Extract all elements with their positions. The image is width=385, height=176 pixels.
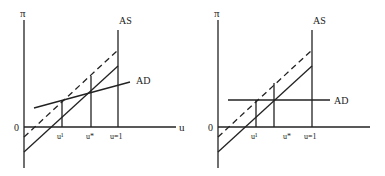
right-tick-u1: u¹ bbox=[251, 132, 258, 141]
right-pi-label: π bbox=[214, 7, 220, 19]
left-expected-line-dashed bbox=[24, 50, 118, 137]
left-as-label: AS bbox=[119, 15, 132, 26]
left-tick-ustar: u* bbox=[86, 132, 94, 141]
left-origin-label: 0 bbox=[14, 122, 19, 133]
right-as-line bbox=[218, 66, 312, 152]
right-panel bbox=[218, 20, 370, 168]
left-panel bbox=[24, 20, 176, 168]
left-pi-label: π bbox=[20, 7, 26, 19]
left-labels: π u 0 AS AD u¹ u* u=1 bbox=[14, 7, 185, 141]
left-ad-line bbox=[34, 82, 130, 108]
left-tick-u-eq-1: u=1 bbox=[110, 132, 123, 141]
right-tick-u-eq-1: u=1 bbox=[304, 132, 317, 141]
right-origin-label: 0 bbox=[208, 122, 213, 133]
left-ad-label: AD bbox=[136, 75, 150, 86]
right-labels: π 0 AS AD u¹ u* u=1 bbox=[208, 7, 348, 141]
diagram-canvas: π u 0 AS AD u¹ u* u=1 π 0 AS AD u¹ u* u=… bbox=[0, 0, 385, 176]
right-tick-ustar: u* bbox=[283, 132, 291, 141]
right-as-label: AS bbox=[313, 15, 326, 26]
left-u-label: u bbox=[179, 121, 185, 133]
left-tick-u1: u¹ bbox=[57, 132, 64, 141]
right-expected-line-dashed bbox=[218, 50, 312, 137]
left-as-line bbox=[24, 66, 118, 152]
right-ad-label: AD bbox=[334, 95, 348, 106]
